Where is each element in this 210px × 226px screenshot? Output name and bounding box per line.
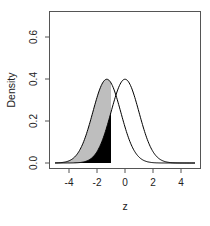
x-tick-label: -2 [93,177,102,188]
density-plot: -4-2024 0.00.20.40.6 z Density [0,0,210,226]
curve-shifted-normal [55,79,195,163]
y-tick-label: 0.2 [28,114,39,128]
y-tick-label: 0.0 [28,156,39,170]
plot-box [50,12,201,169]
plot-area [55,79,195,163]
y-axis: 0.00.20.40.6 [28,30,49,170]
y-axis-title: Density [5,72,17,108]
x-tick-label: 4 [178,177,184,188]
x-tick-label: -4 [65,177,74,188]
x-axis: -4-2024 [65,169,185,188]
x-tick-label: 0 [122,177,128,188]
x-axis-title: z [122,200,127,212]
x-tick-label: 2 [150,177,156,188]
y-tick-label: 0.6 [28,30,39,44]
curve-standard-normal [55,79,195,163]
y-tick-label: 0.4 [28,72,39,86]
